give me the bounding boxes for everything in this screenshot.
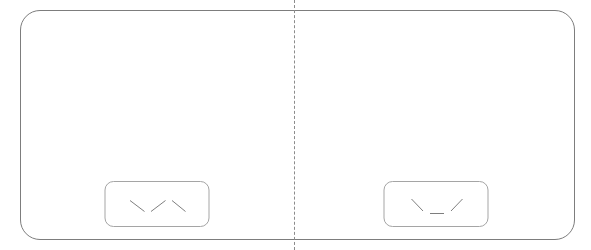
panel-left-anti [20, 10, 294, 240]
skeletal-formula-right [384, 182, 489, 228]
molecule-stage-right [296, 10, 575, 185]
formula-bond-3 [172, 201, 186, 212]
skeletal-formula-box-right [383, 181, 488, 227]
skeletal-formula-box-left [105, 181, 210, 227]
formula-bond-2 [151, 201, 166, 212]
formula-bond-1 [411, 199, 423, 211]
panel-divider-dashed [294, 0, 295, 250]
molecule-stage-left [20, 10, 294, 185]
molecule-figure [0, 0, 591, 250]
skeletal-formula-left [106, 182, 211, 228]
formula-bond-3 [451, 199, 463, 211]
panel-right-gauche [296, 10, 575, 240]
formula-bond-1 [130, 201, 145, 212]
